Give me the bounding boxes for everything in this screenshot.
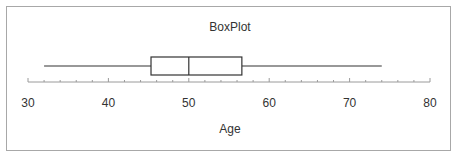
tick-label: 30 — [21, 96, 35, 110]
tick-label: 40 — [102, 96, 116, 110]
x-axis: 304050607080 — [21, 78, 437, 110]
chart-title: BoxPlot — [209, 20, 251, 34]
iqr-box — [151, 57, 242, 75]
boxplot-chart: BoxPlot 304050607080 Age — [0, 0, 457, 157]
tick-label: 70 — [343, 96, 357, 110]
tick-label: 60 — [263, 96, 277, 110]
tick-label: 50 — [182, 96, 196, 110]
tick-label: 80 — [423, 96, 437, 110]
x-axis-label: Age — [219, 122, 241, 136]
box-plot-area — [44, 57, 382, 75]
